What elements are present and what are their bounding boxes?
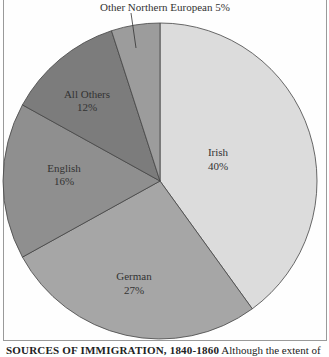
callout-label: Other Northern European 5% xyxy=(100,1,230,13)
caption-text: Although the extent of xyxy=(221,344,320,356)
slice-value-all-others: 12% xyxy=(77,101,97,113)
slice-label-english: English xyxy=(47,162,81,174)
figure-caption: SOURCES OF IMMIGRATION, 1840-1860 Althou… xyxy=(6,344,329,356)
caption-heading: SOURCES OF IMMIGRATION, 1840-1860 xyxy=(6,344,219,356)
slice-label-german: German xyxy=(116,270,152,282)
slice-label-irish: Irish xyxy=(208,146,229,158)
slice-value-english: 16% xyxy=(54,175,74,187)
pie-chart: Other Northern European 5% Irish 40% Ger… xyxy=(0,0,329,357)
pie-slices xyxy=(3,23,317,339)
slice-value-irish: 40% xyxy=(208,160,228,172)
slice-label-all-others: All Others xyxy=(64,88,110,100)
slice-value-german: 27% xyxy=(124,284,144,296)
